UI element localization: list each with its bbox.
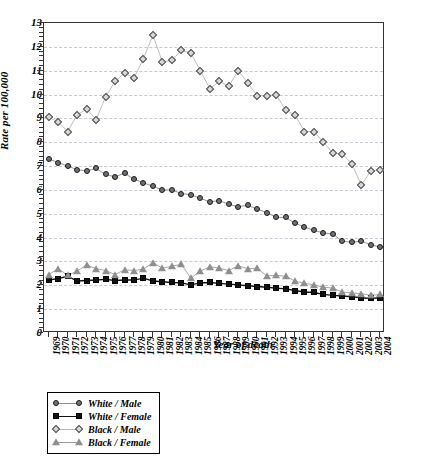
data-point	[300, 280, 308, 287]
data-point	[197, 280, 203, 286]
data-point	[339, 238, 345, 244]
data-point	[92, 265, 100, 272]
legend-marker	[53, 398, 83, 409]
data-point	[226, 201, 232, 207]
data-point	[131, 176, 137, 182]
data-point	[301, 289, 307, 295]
data-point	[215, 264, 223, 271]
data-point	[84, 168, 90, 174]
data-point	[330, 231, 336, 237]
data-point	[159, 187, 165, 193]
data-point	[245, 202, 251, 208]
data-point	[311, 227, 317, 233]
data-point	[121, 266, 129, 273]
legend-label: White / Male	[88, 398, 141, 409]
data-point	[349, 239, 355, 245]
data-point	[245, 283, 251, 289]
data-point	[74, 167, 80, 173]
y-axis-title: Rate per 100,000	[0, 20, 10, 150]
data-point	[338, 288, 346, 295]
data-point	[235, 282, 241, 288]
data-point	[84, 278, 90, 284]
x-tick-label: 1985	[203, 337, 213, 355]
data-point	[206, 263, 214, 270]
legend-marker-glyph	[76, 413, 82, 419]
data-point	[216, 198, 222, 204]
data-point	[301, 224, 307, 230]
x-tick-label: 1993	[279, 337, 289, 355]
legend-marker	[53, 424, 83, 435]
data-point	[178, 280, 184, 286]
data-point	[291, 277, 299, 284]
legend-marker-glyph	[75, 425, 83, 433]
data-point	[320, 291, 326, 297]
data-point	[273, 214, 279, 220]
data-point	[46, 277, 52, 283]
data-point	[139, 265, 147, 272]
data-point	[216, 280, 222, 286]
data-point	[263, 272, 271, 279]
data-point	[187, 274, 195, 281]
data-point	[197, 195, 203, 201]
data-point	[207, 279, 213, 285]
data-point	[283, 214, 289, 220]
x-tick-label: 1981	[165, 337, 175, 355]
data-point	[45, 271, 53, 278]
data-point	[112, 174, 118, 180]
data-point	[93, 165, 99, 171]
x-tick-label: 1983	[184, 337, 194, 355]
data-point	[329, 284, 337, 291]
data-point	[273, 285, 279, 291]
data-point	[130, 267, 138, 274]
legend-marker-glyph	[52, 438, 60, 445]
legend-item: Black / Female	[53, 436, 151, 449]
data-point	[150, 278, 156, 284]
legend-marker-glyph	[75, 438, 83, 445]
x-tick-label: 1976	[118, 337, 128, 355]
legend-marker	[53, 411, 83, 422]
data-point	[244, 265, 252, 272]
data-point	[319, 283, 327, 290]
legend-marker-glyph	[53, 413, 59, 419]
x-tick-label: 1991	[260, 337, 270, 355]
x-tick-label: 1977	[128, 337, 138, 355]
data-point	[102, 267, 110, 274]
data-point	[272, 271, 280, 278]
data-point	[283, 286, 289, 292]
data-point	[169, 279, 175, 285]
data-point	[311, 289, 317, 295]
data-point	[292, 288, 298, 294]
legend-marker	[53, 437, 83, 448]
x-tick-label: 1970	[61, 337, 71, 355]
data-point	[140, 180, 146, 186]
legend-marker-glyph	[76, 400, 82, 406]
data-point	[330, 292, 336, 298]
data-point	[65, 163, 71, 169]
chart-legend: White / MaleWhite / FemaleBlack / MaleBl…	[47, 392, 160, 454]
data-point	[292, 220, 298, 226]
legend-marker-glyph	[53, 400, 59, 406]
data-point	[103, 276, 109, 282]
data-point	[112, 278, 118, 284]
data-point	[358, 238, 364, 244]
x-tick-label: 1987	[222, 337, 232, 355]
legend-label: Black / Female	[88, 437, 151, 448]
data-point	[177, 260, 185, 267]
data-point	[93, 277, 99, 283]
data-point	[73, 267, 81, 274]
data-point	[264, 210, 270, 216]
data-point	[357, 290, 365, 297]
x-tick-label: 2000	[345, 337, 355, 355]
x-tick-label: 2004	[383, 337, 393, 355]
data-point	[367, 291, 375, 298]
data-point	[188, 282, 194, 288]
data-point	[282, 272, 290, 279]
x-tick-label: 1972	[80, 337, 90, 355]
data-point	[55, 160, 61, 166]
data-point	[196, 267, 204, 274]
legend-item: White / Male	[53, 397, 151, 410]
data-point	[254, 284, 260, 290]
data-point	[55, 276, 61, 282]
data-point	[74, 278, 80, 284]
data-point	[310, 281, 318, 288]
